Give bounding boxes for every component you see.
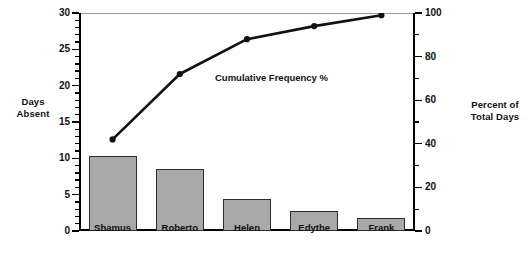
cumulative-line-marker (311, 23, 317, 29)
left-axis-major-tick (72, 85, 79, 86)
right-axis-tick-label: 60 (425, 95, 465, 105)
right-axis-major-tick (415, 187, 422, 188)
right-axis-title: Percent of Total Days (464, 99, 526, 122)
right-axis-tick-label: 20 (425, 182, 465, 192)
cumulative-frequency-line (79, 13, 415, 231)
right-axis-major-tick (415, 100, 422, 101)
right-axis-tick-label: 40 (425, 139, 465, 149)
cumulative-line-marker (110, 136, 116, 142)
cumulative-line-marker (244, 36, 250, 42)
plot-area: 051015202530 020406080100 Cumulative Fre… (79, 13, 415, 231)
cumulative-frequency-label: Cumulative Frequency % (215, 72, 328, 83)
left-axis-title: Days Absent (4, 96, 62, 119)
left-axis-major-tick (72, 121, 79, 122)
right-axis-minor-tick (415, 78, 419, 79)
right-axis-title-line1: Percent of (464, 99, 526, 111)
pareto-chart: Days Absent Percent of Total Days 051015… (0, 0, 528, 255)
right-axis-minor-tick (415, 121, 419, 122)
x-axis-tick-label: Frank (336, 222, 426, 233)
right-axis-title-line2: Total Days (464, 111, 526, 123)
right-axis-tick-label: 80 (425, 52, 465, 62)
right-axis-minor-tick (415, 209, 419, 210)
right-axis-major-tick (415, 143, 422, 144)
right-axis-major-tick (415, 12, 422, 13)
right-axis-minor-tick (415, 34, 419, 35)
right-axis-tick-label: 100 (425, 8, 465, 18)
left-axis-tick-label: 15 (30, 117, 70, 127)
left-axis-tick-label: 30 (30, 8, 70, 18)
right-axis-minor-tick (415, 165, 419, 166)
right-axis-tick-label: 0 (425, 226, 465, 236)
left-axis-major-tick (72, 194, 79, 195)
left-axis-major-tick (72, 158, 79, 159)
cumulative-line-marker (378, 13, 384, 18)
right-axis-major-tick (415, 56, 422, 57)
left-axis-tick-label: 5 (30, 190, 70, 200)
cumulative-line-marker (177, 71, 183, 77)
left-axis-major-tick (72, 12, 79, 13)
left-axis-major-tick (72, 49, 79, 50)
left-axis-title-line1: Days (4, 96, 62, 108)
left-axis-tick-label: 20 (30, 81, 70, 91)
left-axis-tick-label: 0 (30, 226, 70, 236)
left-axis-tick-label: 25 (30, 44, 70, 54)
left-axis-tick-label: 10 (30, 153, 70, 163)
